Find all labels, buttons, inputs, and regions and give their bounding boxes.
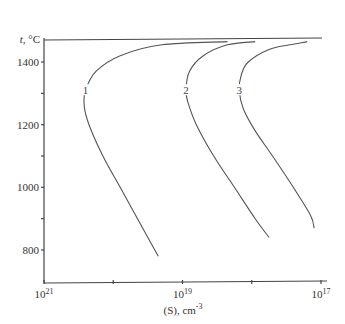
y-axis-label: t, °C (20, 33, 40, 45)
y-tick-label: 1000 (17, 181, 40, 193)
x-tick-label: 1019 (173, 287, 192, 300)
y-ticks: 140012001000800 (17, 56, 44, 256)
x-tick-label: 1021 (35, 287, 54, 300)
curve-3 (239, 42, 314, 229)
curve-label-2: 2 (183, 84, 189, 96)
x-axis-label: (S), cm-3 (163, 302, 202, 317)
curves: 123 (83, 42, 315, 257)
x-axis (44, 281, 327, 283)
curve-1 (84, 42, 228, 257)
y-tick-label: 1400 (17, 56, 40, 68)
solidus-line (44, 38, 322, 40)
curve-label-1: 1 (83, 84, 89, 96)
chart: t, °C 140012001000800 102110191017 123 (… (0, 0, 345, 324)
curve-label-3: 3 (237, 84, 243, 96)
curve-2 (186, 42, 269, 238)
y-tick-label: 800 (23, 244, 40, 256)
x-tick-label: 1017 (312, 287, 331, 300)
y-tick-label: 1200 (17, 119, 40, 131)
